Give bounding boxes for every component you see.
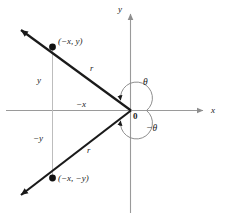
segment-label-vertical-upper: y xyxy=(37,76,41,85)
figure-canvas xyxy=(0,0,227,223)
origin-label: 0 xyxy=(133,112,138,121)
segment-label-upper-radius: r xyxy=(90,64,93,73)
segment-label-horizontal: −x xyxy=(76,100,86,109)
angle-label-positive: θ xyxy=(143,78,148,88)
point-dot-upper xyxy=(49,44,56,51)
point-label-lower: (−x, −y) xyxy=(58,174,89,183)
point-label-upper: (−x, y) xyxy=(58,37,83,46)
angle-label-negative: −θ xyxy=(146,124,157,134)
x-axis-label: x xyxy=(211,106,215,115)
polar-reflection-figure: y x 0 (−x, y) (−x, −y) r r y −y −x θ −θ xyxy=(0,0,227,223)
point-dot-lower xyxy=(49,175,56,182)
segment-label-lower-radius: r xyxy=(87,146,90,155)
segment-label-vertical-lower: −y xyxy=(33,134,43,143)
y-axis-label: y xyxy=(118,5,122,14)
